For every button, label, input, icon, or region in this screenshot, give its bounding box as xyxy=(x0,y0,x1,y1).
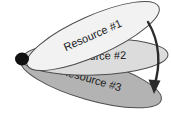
diagram-canvas: Resource #3 Resource #2 Resource #1 xyxy=(0,0,171,116)
pivot-point-dot xyxy=(15,53,29,66)
resource-fan-diagram: Resource #3 Resource #2 Resource #1 xyxy=(0,0,171,116)
